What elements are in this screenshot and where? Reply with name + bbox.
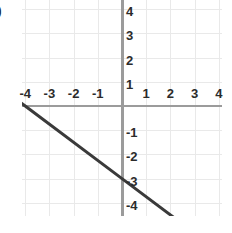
x-axis-tick-label: 2 (167, 87, 174, 100)
option-label-paren: ) (0, 2, 2, 20)
x-axis-tick-label: 3 (191, 87, 198, 100)
x-axis-tick-label: -2 (68, 87, 80, 100)
y-axis-tick-label: -2 (126, 150, 138, 163)
y-axis-tick-label: 4 (126, 5, 133, 18)
y-axis-tick-label: -4 (126, 198, 138, 211)
series-layer (22, 0, 222, 216)
y-axis-tick-label: 2 (126, 53, 133, 66)
x-axis-tick-label: -4 (19, 87, 31, 100)
x-axis-tick-label: -3 (44, 87, 56, 100)
x-axis-tick-label: -1 (92, 87, 104, 100)
y-axis-tick-label: 3 (126, 29, 133, 42)
x-axis-tick-label: 4 (215, 87, 222, 100)
coordinate-graph-figure: ) -4-3-2-112344321-1-2-3-4 (0, 0, 232, 233)
y-axis-tick-label: -3 (126, 174, 138, 187)
y-axis-tick-label: 1 (126, 77, 133, 90)
x-axis-tick-label: 1 (143, 87, 150, 100)
plot-area (22, 0, 222, 216)
line-series (22, 99, 185, 216)
y-axis-tick-label: -1 (126, 126, 138, 139)
